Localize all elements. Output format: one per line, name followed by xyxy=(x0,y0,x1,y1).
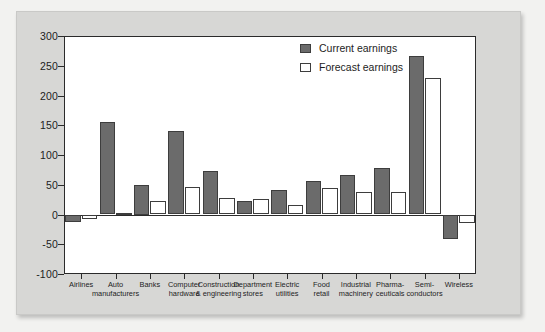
bar-forecast xyxy=(116,213,132,215)
x-tick-mark xyxy=(459,274,460,279)
y-tick-label: -100 xyxy=(36,268,58,280)
x-tick-mark xyxy=(184,274,185,279)
bar-forecast xyxy=(322,188,338,214)
bar-current xyxy=(409,56,425,215)
chart-screenshot: 300250200150100500-50-100 AirlinesAuto m… xyxy=(0,0,545,332)
bar-current xyxy=(100,122,116,215)
bar-forecast xyxy=(219,198,235,215)
y-tick-label: 300 xyxy=(40,30,58,42)
bar-current xyxy=(271,190,287,214)
bar-forecast xyxy=(356,192,372,214)
legend-label-forecast: Forecast earnings xyxy=(319,61,403,73)
x-tick-mark xyxy=(150,274,151,279)
x-axis-category-label: Wireless xyxy=(421,281,497,290)
y-tick-mark xyxy=(58,274,64,275)
y-tick-label: 250 xyxy=(40,60,58,72)
bar-current xyxy=(340,175,356,214)
chart-legend: Current earnings Forecast earnings xyxy=(300,42,403,80)
x-tick-mark xyxy=(322,274,323,279)
x-tick-mark xyxy=(116,274,117,279)
y-tick-label: 100 xyxy=(40,149,58,161)
y-tick-label: -50 xyxy=(42,238,58,250)
bar-current xyxy=(168,131,184,214)
bar-forecast xyxy=(82,215,98,219)
x-tick-mark xyxy=(287,274,288,279)
legend-swatch-forecast-icon xyxy=(300,63,311,72)
bar-current xyxy=(65,215,81,222)
bar-forecast xyxy=(185,187,201,214)
bar-current xyxy=(237,201,253,215)
x-tick-mark xyxy=(390,274,391,279)
bar-forecast xyxy=(150,201,166,214)
bar-forecast xyxy=(253,199,269,214)
bar-current xyxy=(374,168,390,214)
legend-item-forecast[interactable]: Forecast earnings xyxy=(300,61,403,73)
legend-swatch-current-icon xyxy=(300,44,311,53)
legend-item-current[interactable]: Current earnings xyxy=(300,42,403,54)
x-tick-mark xyxy=(219,274,220,279)
x-tick-mark xyxy=(425,274,426,279)
bar-forecast xyxy=(288,205,304,215)
x-tick-mark xyxy=(356,274,357,279)
y-tick-label: 50 xyxy=(46,179,58,191)
y-tick-label: 200 xyxy=(40,90,58,102)
bar-current xyxy=(443,215,459,240)
bar-forecast xyxy=(459,215,475,223)
bar-forecast xyxy=(391,192,407,214)
x-tick-mark xyxy=(253,274,254,279)
bar-current xyxy=(134,185,150,215)
bar-current xyxy=(306,181,322,215)
legend-label-current: Current earnings xyxy=(319,42,397,54)
bar-forecast xyxy=(425,78,441,214)
bar-current xyxy=(203,171,219,214)
x-tick-mark xyxy=(81,274,82,279)
y-tick-label: 150 xyxy=(40,119,58,131)
